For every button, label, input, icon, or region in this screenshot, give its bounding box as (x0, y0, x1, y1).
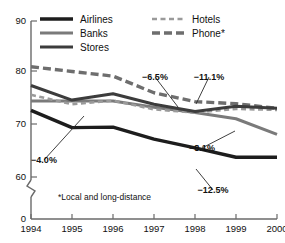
x-tick-label-1996: 1996 (102, 223, 123, 234)
x-tick-label-1994: 1994 (20, 223, 41, 234)
y-tick-label-60: 60 (15, 171, 26, 182)
x-tick-label-1997: 1997 (143, 223, 164, 234)
annotation-phone: −11.1% (194, 72, 224, 82)
x-tick-label-1995: 1995 (61, 223, 82, 234)
legend-label-phone: Phone* (192, 28, 225, 39)
legend-label-stores: Stores (80, 42, 109, 53)
chart-container: 90 80 70 60 0 1994 1995 1996 1997 1998 1… (0, 0, 285, 243)
y-axis-break-icon (27, 180, 35, 197)
y-tick-label-70: 70 (15, 118, 26, 129)
footnote-text: *Local and long-distance (58, 192, 151, 202)
x-axis-ticks (31, 214, 277, 219)
legend-label-hotels: Hotels (192, 14, 220, 25)
y-tick-label-80: 80 (15, 65, 26, 76)
chart-legend: Airlines Banks Stores Hotels Phone* (40, 14, 225, 53)
legend-item-banks[interactable]: Banks (40, 28, 108, 39)
x-tick-label-1998: 1998 (184, 223, 205, 234)
legend-item-phone[interactable]: Phone* (152, 28, 225, 39)
legend-item-airlines[interactable]: Airlines (40, 14, 113, 25)
annotation-stores: −6.5% (142, 72, 168, 82)
annotation-airlines: −12.5% (198, 185, 229, 195)
legend-label-airlines: Airlines (80, 14, 113, 25)
legend-item-stores[interactable]: Stores (40, 42, 109, 53)
y-axis-ticks (31, 21, 37, 177)
legend-label-banks: Banks (80, 28, 108, 39)
x-tick-label-1999: 1999 (225, 223, 246, 234)
x-tick-label-2000: 2000 (266, 223, 285, 234)
legend-item-hotels[interactable]: Hotels (152, 14, 220, 25)
annotation-banks: −8.1% (189, 143, 215, 153)
line-chart: 90 80 70 60 0 1994 1995 1996 1997 1998 1… (0, 0, 285, 243)
annotation-hotels: −4.0% (31, 155, 57, 165)
y-tick-label-90: 90 (15, 15, 26, 26)
